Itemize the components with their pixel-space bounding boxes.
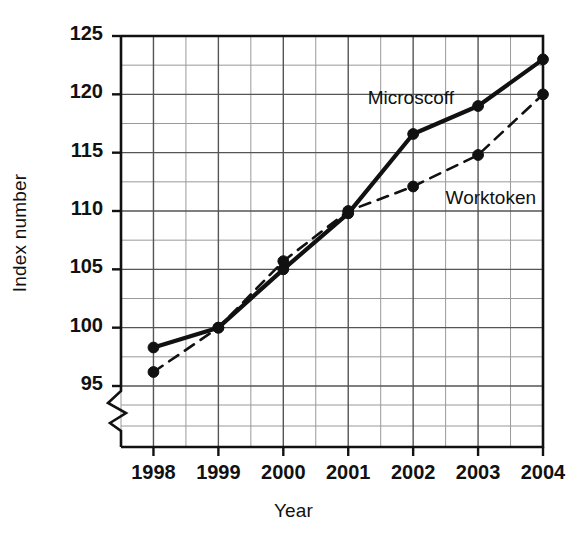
data-point-marker	[538, 89, 549, 100]
data-point-marker	[343, 206, 354, 217]
x-tick-label: 2001	[316, 461, 380, 484]
data-point-marker	[408, 129, 419, 140]
x-tick-label: 1998	[121, 461, 185, 484]
data-point-marker	[473, 101, 484, 112]
data-point-marker	[538, 54, 549, 65]
axis-break-symbol	[108, 386, 126, 447]
x-tick-label: 2002	[381, 461, 445, 484]
y-tick-label: 105	[43, 255, 103, 278]
x-axis-title: Year	[0, 500, 587, 522]
y-tick-label: 110	[43, 197, 103, 220]
y-tick-label: 95	[43, 372, 103, 395]
x-tick-label: 2004	[511, 461, 575, 484]
data-point-marker	[148, 367, 159, 378]
data-point-marker	[473, 150, 484, 161]
x-tick-label: 2003	[446, 461, 510, 484]
y-tick-label: 100	[43, 314, 103, 337]
x-tick-label: 2000	[251, 461, 315, 484]
series-label-worktoken: Worktoken	[446, 187, 536, 209]
data-point-marker	[213, 322, 224, 333]
data-point-marker	[278, 256, 289, 267]
line-chart: Index number Year 95100105110115120125 1…	[0, 0, 587, 540]
series-label-microscoff: Microscoff	[368, 87, 454, 109]
y-tick-label: 125	[43, 22, 103, 45]
y-tick-label: 115	[43, 139, 103, 162]
y-tick-label: 120	[43, 80, 103, 103]
y-axis-title: Index number	[9, 143, 31, 323]
data-point-marker	[148, 342, 159, 353]
x-tick-label: 1999	[186, 461, 250, 484]
data-point-marker	[408, 181, 419, 192]
major-gridlines	[121, 36, 543, 447]
